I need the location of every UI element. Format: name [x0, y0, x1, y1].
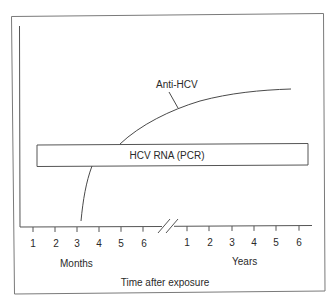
year-tick-label: 4	[251, 237, 257, 248]
month-ticks	[33, 227, 143, 232]
month-tick-label: 5	[118, 238, 124, 249]
months-label: Months	[60, 258, 93, 269]
year-tick-label: 5	[273, 237, 279, 248]
month-tick-label: 1	[30, 238, 36, 249]
month-tick-label: 4	[96, 238, 102, 249]
month-tick-label: 3	[74, 238, 80, 249]
years-label: Years	[232, 256, 257, 267]
anti-hcv-leader	[169, 92, 178, 108]
year-tick-label: 1	[184, 237, 190, 248]
month-tick-label: 6	[141, 238, 147, 249]
x-axis-years	[174, 226, 312, 227]
anti-hcv-curve-upper	[120, 89, 291, 144]
anti-hcv-label: Anti-HCV	[156, 79, 198, 90]
anti-hcv-curve-lower	[81, 166, 92, 221]
hcv-rna-label: HCV RNA (PCR)	[129, 150, 204, 161]
month-tick-label: 2	[53, 238, 59, 249]
year-tick-label: 3	[229, 237, 235, 248]
chart-figure: 1 2 3 4 5 6 1 2 3 4 5 6 Months Years Tim…	[0, 0, 336, 305]
x-axis-title: Time after exposure	[121, 277, 210, 288]
year-tick-label: 6	[296, 237, 302, 248]
y-axis	[20, 26, 21, 227]
x-axis-months	[20, 227, 162, 228]
year-tick-label: 2	[207, 237, 213, 248]
